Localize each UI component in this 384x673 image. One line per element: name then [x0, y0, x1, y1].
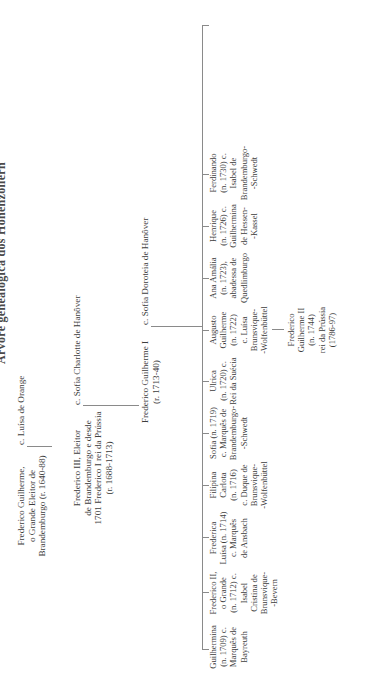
- spouse-sofia-doroteia: c. Sofia Doroteia de Hanôver: [140, 218, 151, 325]
- text-line: Cristina de: [249, 567, 259, 619]
- text-line: Henrique: [208, 197, 218, 255]
- child-guilhermina: Guilhermina(n. 1709) c.Marquês deBayreut…: [208, 621, 249, 673]
- text-line: Isabel de: [228, 143, 238, 203]
- text-line: Ferdinando: [208, 143, 218, 203]
- sibling-bar: [202, 25, 203, 650]
- text-line: (n. 1723),: [218, 249, 228, 307]
- text-line: Frederica: [208, 509, 218, 567]
- grandchild-frederico-guilherme-ii: FredericoGuilherme II(n. 1744)rei da Prú…: [286, 300, 337, 360]
- marriage-line: [83, 405, 139, 406]
- text-line: Bayreuth: [239, 621, 249, 673]
- person-line: Frederico Guilherme I: [140, 323, 151, 441]
- child-henrique: Henrique(n. 1726) c.Guilherminade Hessen…: [208, 197, 259, 255]
- genealogy-page: Árvore genealógica dos Hohenzollern Fred…: [0, 0, 384, 673]
- person-line: (r. 1688-1713): [104, 403, 115, 533]
- text-line: -Kassel: [249, 197, 259, 255]
- child-tick: [202, 25, 209, 26]
- text-line: (n. 1720) c.: [218, 352, 228, 410]
- text-line: c. Marquês de: [218, 404, 228, 462]
- person-frederico-guilherme-i: Frederico Guilherme I (r. 1713-40): [140, 323, 161, 441]
- text-line: Guilhermina: [208, 621, 218, 673]
- text-line: Sofia (n. 1719): [208, 404, 218, 462]
- person-frederico-guilherme-grande-eleitor: Frederico Guilherme, o Grande Eleitor de…: [16, 447, 48, 565]
- person-line: 1701 Frederico I rei da Prússia: [93, 403, 104, 533]
- person-line: de Brandemburgo e desde: [83, 403, 94, 533]
- grandchild-connector: [272, 329, 284, 330]
- child-frederico-ii: Frederico II,o Grande(n. 1712) c.IsabelC…: [208, 567, 279, 619]
- person-line: Frederico III, Eleitor: [72, 403, 83, 533]
- text-line: (n. 1709) c.: [218, 621, 228, 673]
- text-line: (n. 1744): [306, 300, 316, 360]
- text-line: (1786-97): [327, 300, 337, 360]
- text-line: -Schwedt: [249, 143, 259, 203]
- spouse-luisa-de-orange: c. Luísa de Orange: [16, 376, 27, 445]
- text-line: Guilherme II: [296, 300, 306, 360]
- child-ferdinando: Ferdinando(n. 1730) c.Isabel deBrandembu…: [208, 143, 259, 203]
- text-line: (n. 1722): [228, 301, 238, 359]
- text-line: Carlota: [218, 457, 228, 513]
- person-line: o Grande Eleitor de: [27, 447, 38, 565]
- child-sofia: Sofia (n. 1719)c. Marquês deBrandemburgo…: [208, 404, 249, 462]
- person-line: Brandemburgo (r. 1640-88): [37, 447, 48, 565]
- person-line: Frederico Guilherme,: [16, 447, 27, 565]
- person-line: (r. 1713-40): [151, 323, 162, 441]
- text-line: Marquês de: [228, 621, 238, 673]
- text-line: Brandemburgo-: [228, 404, 238, 462]
- descent-line: [51, 446, 52, 447]
- text-line: Brunsvique-: [249, 301, 259, 359]
- text-line: Filipina: [208, 457, 218, 513]
- text-line: Brandemburgo-: [239, 143, 249, 203]
- text-line: Frederico: [286, 300, 296, 360]
- marriage-line: [151, 326, 203, 327]
- text-line: Quedlimburgo: [239, 249, 249, 307]
- child-augusto-guilherme: AugustoGuilherme(n. 1722)c. LuísaBrunsvi…: [208, 301, 269, 359]
- text-line: -Bevern: [269, 567, 279, 619]
- text-line: (n. 1712) c.: [228, 567, 238, 619]
- text-line: Brunsvique-: [249, 457, 259, 513]
- text-line: rei da Prússia: [317, 300, 327, 360]
- text-line: -Wolfenbüttel: [259, 301, 269, 359]
- spouse-sofia-charlotte: c. Sofia Charlotte de Hanôver: [72, 296, 83, 405]
- text-line: -Wolfenbüttel: [259, 457, 269, 513]
- text-line: c. Marquês: [228, 509, 238, 567]
- child-filipina-carlota: FilipinaCarlota(n. 1716)c. Duque deBruns…: [208, 457, 269, 513]
- text-line: Guilherme: [218, 301, 228, 359]
- text-line: Augusto: [208, 301, 218, 359]
- text-line: Rei da Suécia: [228, 352, 238, 410]
- text-line: Ulrica: [208, 352, 218, 410]
- text-line: abadessa de: [228, 249, 238, 307]
- text-line: Isabel: [239, 567, 249, 619]
- text-line: c. Luísa: [239, 301, 249, 359]
- child-ulrica: Ulrica(n. 1720) c.Rei da Suécia: [208, 352, 239, 410]
- text-line: o Grande: [218, 567, 228, 619]
- text-line: de Hessen-: [239, 197, 249, 255]
- text-line: -Schwedt: [239, 404, 249, 462]
- text-line: (n. 1730) c.: [218, 143, 228, 203]
- text-line: Frederico II,: [208, 567, 218, 619]
- text-line: (n. 1726) c.: [218, 197, 228, 255]
- marriage-line: [27, 446, 52, 447]
- text-line: Ana Amália: [208, 249, 218, 307]
- person-frederico-iii: Frederico III, Eleitor de Brandemburgo e…: [72, 403, 114, 533]
- child-frederica-luisa: FredericaLuísa (n. 1714)c. Marquêsde Ans…: [208, 509, 249, 567]
- text-line: c. Duque de: [239, 457, 249, 513]
- child-ana-amalia: Ana Amália(n. 1723),abadessa deQuedlimbu…: [208, 249, 249, 307]
- page-title: Árvore genealógica dos Hohenzollern: [0, 103, 9, 423]
- text-line: (n. 1716): [228, 457, 238, 513]
- text-line: de Ansbach: [239, 509, 249, 567]
- text-line: Brunsvique-: [259, 567, 269, 619]
- text-line: Luísa (n. 1714): [218, 509, 228, 567]
- text-line: Guilhermina: [228, 197, 238, 255]
